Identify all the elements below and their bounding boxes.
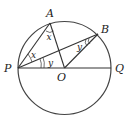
angle-label-y-at-p: y xyxy=(47,58,54,68)
angle-arc-p-y-2 xyxy=(43,58,44,69)
label-o: O xyxy=(57,71,66,84)
angle-label-x-at-p: x xyxy=(31,50,36,60)
label-b: B xyxy=(100,23,109,36)
angle-arc-p-y xyxy=(40,59,41,68)
geometry-diagram: A B P Q O x x y y xyxy=(0,0,129,120)
angle-label-x-at-a: x xyxy=(47,32,52,42)
label-p: P xyxy=(3,62,12,75)
label-a: A xyxy=(45,7,54,20)
angle-label-y-at-b: y xyxy=(76,42,83,52)
label-q: Q xyxy=(115,62,124,75)
